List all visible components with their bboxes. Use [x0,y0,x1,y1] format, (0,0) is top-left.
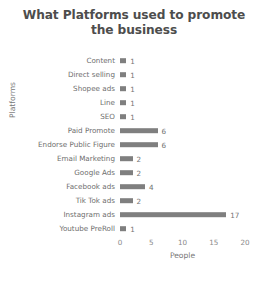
x-tick-label: 15 [209,238,218,247]
x-axis-tick-labels: 05101520 [120,238,245,250]
chart-title-line-1: What Platforms used to promote [23,8,245,22]
bar-chart: What Platforms used to promote the busin… [0,0,267,283]
category-label: Email Marketing [8,152,120,165]
chart-title-line-2: the business [91,23,177,37]
bar [120,212,226,218]
bar [120,156,133,162]
category-label: Youtube PreRoll [8,222,120,235]
bar-row: 4 [120,180,245,193]
bar-value-label: 1 [126,84,135,93]
bar-row: 2 [120,194,245,207]
bar-value-label: 17 [226,210,239,219]
bar [120,128,158,134]
bar-value-label: 1 [126,70,135,79]
category-label: Paid Promote [8,124,120,137]
x-tick-label: 0 [118,238,123,247]
category-label: Tik Tok ads [8,194,120,207]
bar-row: 6 [120,138,245,151]
category-label: Instagram ads [8,208,120,221]
category-label: Direct selling [8,68,120,81]
x-tick-label: 10 [178,238,187,247]
plot-area: 11111662242171 [120,54,245,236]
bar-value-label: 2 [133,196,142,205]
x-tick-label: 20 [240,238,249,247]
bar-value-label: 6 [158,140,167,149]
bar [120,184,145,190]
bar-row: 1 [120,96,245,109]
bar-row: 1 [120,68,245,81]
bar-value-label: 2 [133,168,142,177]
bar [120,170,133,176]
bar-row: 2 [120,152,245,165]
bar [120,142,158,148]
x-tick-label: 5 [149,238,154,247]
category-label: SEO [8,110,120,123]
category-label: Google Ads [8,166,120,179]
bar-row: 17 [120,208,245,221]
bar-row: 1 [120,222,245,235]
category-label: Content [8,54,120,67]
bar-value-label: 6 [158,126,167,135]
bar-value-label: 1 [126,224,135,233]
bar-value-label: 1 [126,112,135,121]
bar-row: 1 [120,110,245,123]
bar-value-label: 2 [133,154,142,163]
y-axis-tick-labels: ContentDirect sellingShopee adsLineSEOPa… [3,54,120,236]
bar-value-label: 4 [145,182,154,191]
x-axis-title: People [120,251,245,260]
bar-value-label: 1 [126,98,135,107]
bar-row: 2 [120,166,245,179]
category-label: Line [8,96,120,109]
bar-row: 6 [120,124,245,137]
bar [120,198,133,204]
bar-row: 1 [120,82,245,95]
category-label: Facebook ads [8,180,120,193]
bar-row: 1 [120,54,245,67]
chart-title: What Platforms used to promote the busin… [16,8,252,38]
category-label: Endorse Public Figure [8,138,120,151]
category-label: Shopee ads [8,82,120,95]
bar-value-label: 1 [126,56,135,65]
